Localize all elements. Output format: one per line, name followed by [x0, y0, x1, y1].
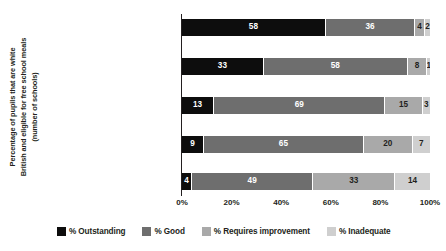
bar-segment: 8: [408, 58, 428, 75]
bar-segment-value: 15: [399, 101, 408, 109]
y-axis-title-line-2: British and eligible for free school mea…: [18, 7, 29, 207]
bar-segment-value: 33: [218, 62, 227, 70]
x-axis-tick-label: 40%: [273, 198, 289, 207]
y-axis-title: Percentage of pupils that are white Brit…: [7, 7, 53, 207]
bar-segment: 9: [182, 136, 204, 153]
x-axis-tick-label: 0%: [176, 198, 188, 207]
bar-segment-value: 58: [249, 23, 258, 31]
legend-label: % Good: [154, 227, 184, 236]
x-axis-tick-label: 100%: [420, 198, 440, 207]
bar-segment-value: 2: [425, 23, 430, 31]
x-axis-tick-labels: 0%20%40%60%80%100%: [182, 198, 430, 210]
bar-segment-value: 58: [331, 62, 340, 70]
x-axis-tick-label: 80%: [372, 198, 388, 207]
bar-segment-value: 8: [415, 62, 420, 70]
legend-item[interactable]: % Inadequate: [327, 227, 391, 236]
stacked-bar-chart: Percentage of pupils that are white Brit…: [0, 0, 446, 251]
bar-segment-value: 4: [184, 177, 189, 185]
bar-segment-value: 20: [383, 140, 392, 148]
bar-segment: 20: [364, 136, 413, 153]
bar-segment: 15: [385, 97, 422, 114]
bar-segment-value: 13: [193, 101, 202, 109]
bar-segment: 69: [214, 97, 385, 114]
chart-legend: % Outstanding% Good% Requires improvemen…: [57, 225, 407, 237]
y-axis-title-line-3: (number of schools): [29, 7, 40, 207]
bar-segment: 58: [182, 19, 326, 36]
bar-segment: 4: [182, 173, 192, 190]
bar-segment-value: 4: [417, 23, 422, 31]
bar-row: 583642: [182, 19, 430, 36]
bar-segment: 14: [395, 173, 430, 190]
bar-segment: 58: [264, 58, 408, 75]
bar-segment-value: 33: [349, 177, 358, 185]
bar-segment: 33: [182, 58, 264, 75]
bar-segment-value: 14: [408, 177, 417, 185]
bar-segment-value: 69: [295, 101, 304, 109]
legend-swatch-icon: [57, 227, 66, 236]
bar-segment-value: 1: [427, 62, 429, 70]
x-axis-tick-label: 60%: [323, 198, 339, 207]
bar-row: 335881: [182, 58, 430, 75]
bar-segment-value: 49: [248, 177, 257, 185]
bar-segment: 2: [425, 19, 430, 36]
legend-swatch-icon: [327, 227, 336, 236]
bar-segment-value: 65: [279, 140, 288, 148]
bar-segment-value: 36: [365, 23, 374, 31]
bar-segment: 49: [192, 173, 314, 190]
legend-item[interactable]: % Good: [142, 227, 184, 236]
legend-swatch-icon: [142, 227, 151, 236]
plot-area: 0% - 7% (627 schools)5836427% - 13% (636…: [182, 14, 430, 196]
bar-segment: 4: [415, 19, 425, 36]
legend-label: % Inadequate: [339, 227, 391, 236]
y-axis-title-line-1: Percentage of pupils that are white: [7, 7, 18, 207]
bar-segment: 65: [204, 136, 364, 153]
bar-row: 1369153: [182, 97, 430, 114]
bar-segment: 13: [182, 97, 214, 114]
bar-segment: 7: [413, 136, 430, 153]
bar-segment: 1: [427, 58, 429, 75]
legend-item[interactable]: % Requires improvement: [202, 227, 310, 236]
bar-segment: 33: [313, 173, 395, 190]
legend-label: % Requires improvement: [214, 227, 310, 236]
bar-segment-value: 9: [190, 140, 195, 148]
bar-row: 965207: [182, 136, 430, 153]
bar-row: 4493314: [182, 173, 430, 190]
legend-item[interactable]: % Outstanding: [57, 227, 125, 236]
x-axis-tick-label: 20%: [224, 198, 240, 207]
bar-segment: 3: [423, 97, 430, 114]
legend-swatch-icon: [202, 227, 211, 236]
bar-segment-value: 7: [419, 140, 424, 148]
bar-segment: 36: [326, 19, 415, 36]
legend-label: % Outstanding: [69, 227, 125, 236]
bar-segment-value: 3: [424, 101, 429, 109]
